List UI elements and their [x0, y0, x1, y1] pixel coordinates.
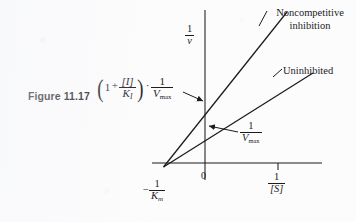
expr-vmax-denominator-subscript: max — [160, 93, 172, 100]
vmax-intercept-label: 1 Vmax — [240, 121, 262, 144]
x-axis-label: 1 [S] — [268, 172, 285, 194]
expr-ki-symbol: K — [123, 87, 130, 99]
x-intercept-denominator-subscript: m — [158, 195, 163, 203]
inhibited-intercept-expression: (1+ [I] KI )· 1 Vmax — [96, 76, 173, 101]
arrow-to-inhibited-intercept — [183, 92, 203, 101]
leader-noncompetitive-label — [259, 11, 267, 26]
expr-inhibitor-concentration: [I] — [119, 76, 135, 87]
curve-label-noncompetitive-line2: inhibition — [290, 20, 331, 31]
open-paren: ( — [97, 78, 103, 99]
expr-vmax-numerator: 1 — [151, 76, 173, 87]
y-axis-label-denominator: v — [185, 35, 194, 47]
curve-label-noncompetitive-inhibition: Noncompetitive inhibition — [268, 7, 352, 33]
curve-noncompetitive-inhibition — [164, 12, 288, 167]
y-axis-label: 1 v — [185, 24, 194, 46]
curve-uninhibited — [164, 73, 314, 167]
vmax-numerator: 1 — [240, 121, 262, 132]
close-paren: ) — [137, 78, 143, 99]
arrow-to-vmax-intercept — [209, 126, 238, 132]
expr-vmax-denominator-symbol: V — [153, 87, 160, 99]
origin-tick-label: 0 — [201, 170, 206, 182]
x-intercept-label: − 1 Km — [143, 179, 165, 203]
figure-canvas: Figure 11.17 1 v 1 [S] 0 − 1 Km 1 Vmax (… — [0, 0, 356, 222]
curve-label-noncompetitive-line1: Noncompetitive — [276, 7, 344, 18]
lineweaver-burk-plot — [0, 0, 356, 222]
expr-ki-subscript: I — [130, 92, 133, 101]
x-intercept-numerator: 1 — [149, 179, 165, 190]
x-intercept-denominator-symbol: K — [151, 190, 158, 201]
x-axis-label-numerator: 1 — [268, 172, 285, 183]
y-axis-label-numerator: 1 — [185, 24, 194, 35]
x-axis-label-denominator: [S] — [268, 183, 285, 195]
vmax-denominator-subscript: max — [248, 137, 259, 144]
expr-multiply-dot: · — [144, 79, 151, 97]
curve-label-uninhibited: Uninhibited — [283, 65, 333, 78]
leader-uninhibited-label — [273, 69, 282, 77]
figure-number-label: Figure 11.17 — [28, 90, 90, 102]
expr-plus: + — [110, 79, 119, 97]
